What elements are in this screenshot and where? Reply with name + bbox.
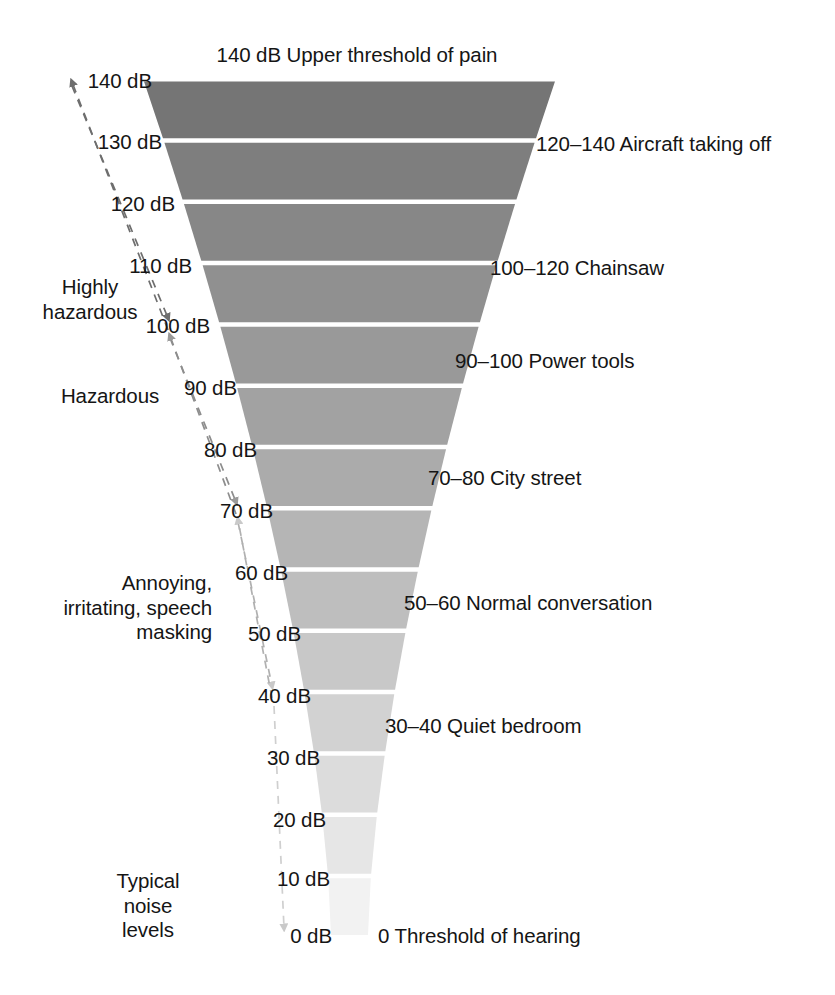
db-tick-30: 30 dB xyxy=(210,746,320,770)
funnel-band-80-90-db xyxy=(237,388,462,445)
db-tick-10: 10 dB xyxy=(220,867,330,891)
descriptor-conversation: 50–60 Normal conversation xyxy=(404,591,652,615)
db-tick-40: 40 dB xyxy=(201,684,311,708)
descriptor-quiet-bedroom: 30–40 Quiet bedroom xyxy=(385,714,581,738)
zone-label-annoying-line3: masking xyxy=(2,620,212,645)
descriptor-power-tools: 90–100 Power tools xyxy=(455,349,634,373)
zone-arrow-hazardous-down xyxy=(170,338,236,502)
funnel-band-130-140-db xyxy=(144,82,555,139)
zone-arrow-hazardous-up xyxy=(170,336,236,514)
funnel-band-70-80-db xyxy=(253,449,446,506)
zone-arrow-annoying-up xyxy=(238,520,272,698)
funnel-band-0-10-db xyxy=(328,878,371,935)
zone-label-hazardous: Hazardous xyxy=(25,384,195,409)
zone-label-annoying: Annoying, irritating, speech masking xyxy=(2,571,212,645)
zone-label-highly-hazardous-line2: hazardous xyxy=(8,300,173,325)
funnel-band-40-50-db xyxy=(294,633,406,690)
db-tick-20: 20 dB xyxy=(216,808,326,832)
zone-label-typical-noise: Typical noise levels xyxy=(83,869,213,943)
zone-label-typical-line1: Typical xyxy=(83,869,213,894)
funnel-band-120-130-db xyxy=(164,143,534,200)
noise-level-funnel-diagram: 140 dB Upper threshold of pain 140 dB 13… xyxy=(0,0,835,995)
funnel-band-60-70-db xyxy=(268,511,432,568)
db-tick-80: 80 dB xyxy=(147,438,257,462)
zone-label-typical-line2: noise xyxy=(83,894,213,919)
zone-label-typical-line3: levels xyxy=(83,918,213,943)
zone-label-annoying-line2: irritating, speech xyxy=(2,596,212,621)
db-tick-140: 140 dB xyxy=(42,69,152,93)
zone-label-highly-hazardous-line1: Highly xyxy=(8,275,173,300)
zone-label-highly-hazardous: Highly hazardous xyxy=(8,275,173,324)
db-tick-110: 110 dB xyxy=(82,254,192,278)
zone-label-hazardous-line1: Hazardous xyxy=(25,384,195,409)
top-caption: 140 dB Upper threshold of pain xyxy=(217,43,498,67)
funnel-band-110-120-db xyxy=(184,204,515,261)
db-tick-0: 0 dB xyxy=(222,924,332,948)
descriptor-aircraft: 120–140 Aircraft taking off xyxy=(536,132,771,156)
db-tick-70: 70 dB xyxy=(163,499,273,523)
descriptor-chainsaw: 100–120 Chainsaw xyxy=(490,256,664,280)
funnel-band-30-40-db xyxy=(305,694,395,751)
db-tick-130: 130 dB xyxy=(52,130,162,154)
zone-label-annoying-line1: Annoying, xyxy=(2,571,212,596)
funnel-band-10-20-db xyxy=(322,817,376,874)
descriptor-threshold: 0 Threshold of hearing xyxy=(378,924,581,948)
descriptor-city-street: 70–80 City street xyxy=(428,466,581,490)
funnel-band-50-60-db xyxy=(281,572,417,629)
funnel-band-90-100-db xyxy=(220,327,478,384)
db-tick-120: 120 dB xyxy=(65,192,175,216)
funnel-band-100-110-db xyxy=(203,265,497,322)
funnel-band-20-30-db xyxy=(314,756,384,813)
